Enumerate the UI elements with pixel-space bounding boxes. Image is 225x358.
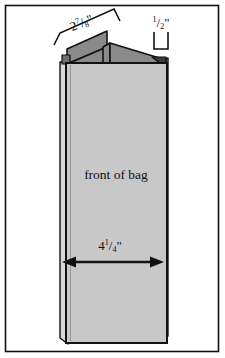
front-width-dimension-label: 41/4" — [98, 238, 122, 254]
diagram-canvas: 27/8" 1/2" front of bag 41/4" — [0, 0, 225, 358]
front-width-unit: " — [116, 238, 121, 253]
flap-center-peak — [103, 43, 110, 64]
bag-diagram-figure: 27/8" 1/2" front of bag 41/4" — [0, 0, 225, 358]
front-panel — [66, 63, 167, 343]
front-of-bag-caption: front of bag — [84, 167, 148, 182]
gusset-width-unit: " — [164, 15, 169, 30]
